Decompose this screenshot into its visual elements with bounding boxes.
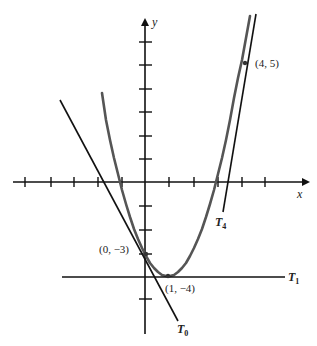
y-axis: y [139, 15, 158, 334]
tangent-line-t0 [60, 100, 178, 321]
point-label-4-5: (4, 5) [255, 57, 279, 70]
y-axis-label: y [151, 15, 158, 29]
graph-figure: x y [0, 0, 317, 346]
point-1-neg4 [166, 274, 170, 278]
point-label-1-neg4: (1, −4) [165, 282, 195, 295]
parabola-curve [102, 16, 250, 276]
point-0-neg3 [144, 252, 148, 256]
tangent-label-t4: T4 [215, 215, 226, 231]
point-4-5 [243, 61, 247, 65]
tangent-label-t1: T1 [288, 270, 299, 286]
tangent-label-t0: T0 [177, 322, 188, 338]
x-axis: x [13, 177, 308, 201]
x-axis-label: x [296, 187, 303, 201]
point-label-0-neg3: (0, −3) [99, 243, 129, 256]
